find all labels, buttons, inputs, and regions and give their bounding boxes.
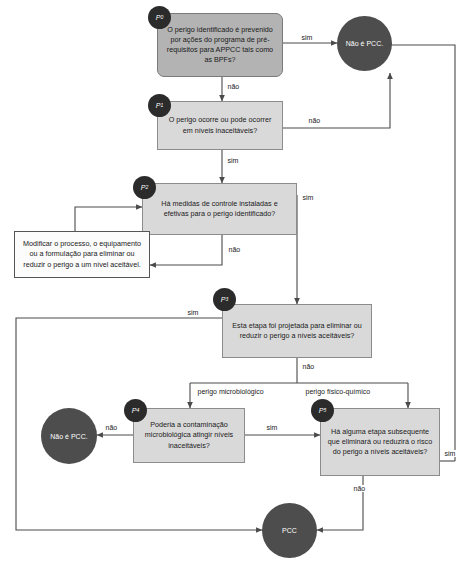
edge-label-branch-fisico-quimico: perigo físico-químico bbox=[304, 388, 372, 395]
decision-p3-text: Esta etapa foi projetada para eliminar o… bbox=[228, 321, 366, 341]
edge-label-p2-no: não bbox=[227, 246, 242, 253]
action-box-modificar[interactable]: Modificar o processo, o equipamento ou a… bbox=[14, 231, 150, 278]
decision-p0-text: O perigo identificado é prevenido por aç… bbox=[163, 25, 277, 66]
edge-label-p0-yes: sim bbox=[300, 34, 314, 41]
decision-box-p3[interactable]: Esta etapa foi projetada para eliminar o… bbox=[222, 304, 372, 358]
badge-p0-index: 0 bbox=[160, 15, 163, 20]
decision-box-p1[interactable]: O perigo ocorre ou pode ocorrer em nívei… bbox=[157, 101, 283, 150]
decision-box-p4[interactable]: Poderia a contaminação microbiológica at… bbox=[133, 408, 245, 463]
terminal-pcc[interactable]: PCC bbox=[262, 503, 317, 558]
terminal-nao-e-pcc-left[interactable]: Não é PCC. bbox=[41, 408, 97, 464]
flowchart-canvas: O perigo identificado é prevenido por aç… bbox=[0, 0, 473, 564]
badge-p2-index: 2 bbox=[145, 185, 148, 190]
edge-label-p3-yes: sim bbox=[186, 309, 200, 316]
edge-label-p1-no: não bbox=[307, 117, 322, 124]
terminal-nao-e-pcc-top[interactable]: Não é PCC. bbox=[337, 16, 392, 71]
decision-p4-text: Poderia a contaminação microbiológica at… bbox=[139, 420, 239, 451]
edge-label-p4-yes: sim bbox=[265, 424, 279, 431]
edge-label-p1-yes: sim bbox=[226, 157, 240, 164]
badge-p4-index: 4 bbox=[136, 408, 139, 413]
edge-label-p4-no: não bbox=[104, 424, 119, 431]
decision-box-p2[interactable]: Há medidas de controle instaladas e efet… bbox=[142, 183, 297, 235]
badge-p5: P5 bbox=[311, 399, 334, 422]
badge-p1-index: 1 bbox=[160, 103, 163, 108]
badge-p1: P1 bbox=[148, 94, 171, 117]
edge-label-p0-no: não bbox=[226, 83, 241, 90]
action-box-text: Modificar o processo, o equipamento ou a… bbox=[20, 239, 144, 270]
edge-label-p5-no: não bbox=[352, 485, 367, 492]
terminal-top-label: Não é PCC. bbox=[346, 40, 383, 47]
edge-label-p2-yes: sim bbox=[301, 194, 315, 201]
badge-p0: P0 bbox=[148, 6, 171, 29]
terminal-left-label: Não é PCC. bbox=[50, 433, 87, 440]
decision-box-p0[interactable]: O perigo identificado é prevenido por aç… bbox=[157, 13, 283, 77]
badge-p3: P3 bbox=[213, 288, 236, 311]
terminal-pcc-label: PCC bbox=[282, 527, 297, 534]
badge-p3-index: 3 bbox=[225, 297, 228, 302]
badge-p2: P2 bbox=[133, 176, 156, 199]
badge-p4: P4 bbox=[124, 399, 147, 422]
edge-label-branch-microbiologico: perigo microbiológico bbox=[196, 388, 265, 395]
decision-p2-text: Há medidas de controle instaladas e efet… bbox=[148, 199, 291, 219]
edge-label-p3-no: não bbox=[301, 363, 316, 370]
decision-p1-text: O perigo ocorre ou pode ocorrer em nívei… bbox=[163, 115, 277, 135]
badge-p5-index: 5 bbox=[323, 408, 326, 413]
decision-box-p5[interactable]: Há alguma etapa subsequente que eliminar… bbox=[320, 408, 440, 476]
edge-label-p5-yes: sim bbox=[443, 450, 457, 457]
decision-p5-text: Há alguma etapa subsequente que eliminar… bbox=[326, 427, 434, 458]
